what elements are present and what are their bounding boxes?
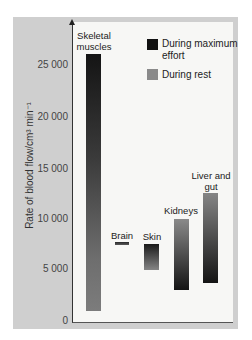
bar-label-kidneys: Kidneys <box>156 205 206 216</box>
bar-brain <box>115 242 129 245</box>
legend-swatch-max-effort <box>147 39 158 50</box>
bar-label-skeletal-muscles: Skeletal muscles <box>69 30 119 52</box>
bar-label-liver-and-gut: Liver and gut <box>186 170 236 192</box>
bar-label-line: Liver and <box>186 170 236 181</box>
bar-liver-and-gut <box>203 193 218 283</box>
legend-label-rest: During rest <box>162 69 211 81</box>
legend-swatch-rest <box>147 69 158 80</box>
bar-skeletal-muscles <box>86 54 101 311</box>
legend-label-max-effort: During maximum effort <box>162 38 238 62</box>
y-axis-arrow-icon <box>69 19 75 25</box>
y-tick-20000: 20 000 <box>8 111 68 122</box>
y-tick-25000: 25 000 <box>8 59 68 70</box>
bar-label-line: muscles <box>69 41 119 52</box>
bar-kidneys <box>174 219 189 290</box>
bar-label-line: gut <box>186 181 236 192</box>
y-tick-15000: 15 000 <box>8 163 68 174</box>
bar-skin <box>144 244 159 270</box>
legend-line: During maximum <box>162 38 238 50</box>
y-tick-10000: 10 000 <box>8 213 68 224</box>
legend-line: effort <box>162 50 238 62</box>
bar-label-line: Skeletal <box>69 30 119 41</box>
bar-label-skin: Skin <box>127 231 177 242</box>
y-tick-0: 0 <box>8 315 68 326</box>
y-tick-5000: 5 000 <box>8 263 68 274</box>
